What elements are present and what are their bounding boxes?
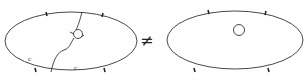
diagram-canvas: c c ≠ (0, 0, 305, 81)
right-surface (167, 11, 303, 69)
right-arrow-marks (194, 10, 269, 72)
left-ellipse (5, 12, 137, 70)
left-lower-curve (51, 38, 74, 72)
right-small-circle (234, 25, 245, 36)
right-ellipse (167, 11, 303, 69)
left-upper-curve (76, 12, 82, 30)
label-c1: c (28, 55, 32, 62)
left-surface (5, 12, 137, 72)
not-equal-sign: ≠ (140, 31, 153, 50)
left-arrow-marks (35, 12, 105, 72)
